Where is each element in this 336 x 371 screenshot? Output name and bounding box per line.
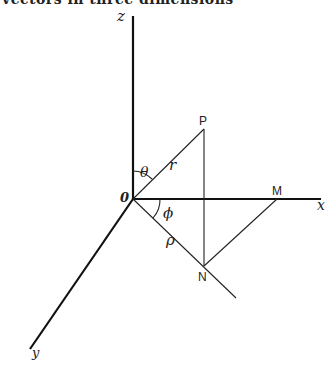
r-label: r: [169, 156, 177, 174]
y-axis: [30, 199, 133, 349]
phi-arc: [153, 199, 160, 218]
spherical-coordinates-diagram: z x y 0 P N M θ r ϕ ρ: [0, 0, 336, 371]
point-P-label: P: [199, 114, 207, 128]
x-axis-label: x: [317, 197, 325, 213]
theta-label: θ: [140, 164, 149, 180]
point-M-label: M: [272, 184, 282, 198]
projection-line-ON: [133, 199, 236, 298]
origin-label: 0: [120, 190, 129, 205]
line-NM: [204, 199, 277, 266]
y-axis-label: y: [31, 345, 40, 360]
phi-label: ϕ: [163, 204, 173, 222]
point-N-label: N: [198, 270, 207, 284]
rho-label: ρ: [165, 231, 175, 249]
z-axis-label: z: [116, 7, 125, 25]
